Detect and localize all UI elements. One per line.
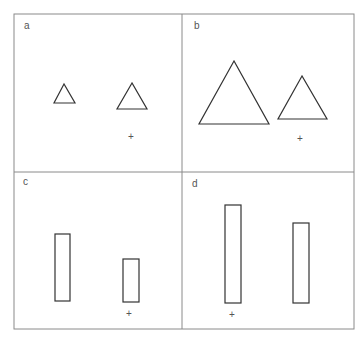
panel-label-d: d xyxy=(192,178,198,189)
fixation-marker-a: + xyxy=(128,131,134,142)
panel-label-a: a xyxy=(24,20,30,31)
large-triangle-right xyxy=(278,76,327,119)
panel-c: c + xyxy=(23,176,139,319)
fixation-marker-b: + xyxy=(297,133,303,144)
panel-a: a + xyxy=(24,20,147,142)
large-triangle-left xyxy=(199,61,269,124)
panel-label-c: c xyxy=(23,176,28,187)
panel-grid xyxy=(14,14,354,329)
small-triangle-right xyxy=(117,83,147,109)
tall-rectangle-right xyxy=(293,223,309,303)
small-triangle-left xyxy=(54,84,75,103)
rectangle-right xyxy=(123,259,139,302)
panel-label-b: b xyxy=(194,20,200,31)
panel-d: d + xyxy=(192,178,309,320)
rectangle-left xyxy=(55,234,70,301)
fixation-marker-c: + xyxy=(126,308,132,319)
fixation-marker-d: + xyxy=(229,309,235,320)
panel-b: b + xyxy=(194,20,327,144)
tall-rectangle-left xyxy=(225,205,241,303)
figure-canvas: a + b + c + d + xyxy=(0,0,364,344)
